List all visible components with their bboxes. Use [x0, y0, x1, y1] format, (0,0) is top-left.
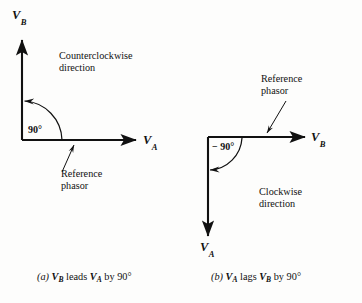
panel-b-horizontal-axis-subscript: B	[320, 139, 326, 149]
panel-b-caption-lagging-sub: A	[232, 275, 237, 284]
panel-b-direction-line1: Clockwise	[259, 186, 302, 198]
panel-b-reference-note: Reference phasor	[261, 73, 302, 97]
panel-b-vertical-axis-subscript: A	[209, 249, 215, 259]
panel-b-reference-line2: phasor	[261, 85, 302, 97]
panel-a-direction-line2: direction	[59, 62, 133, 74]
panel-a-direction-line1: Counterclockwise	[59, 50, 133, 62]
panel-b-caption-by: by	[274, 271, 284, 282]
panel-a-caption-verb: leads	[66, 271, 87, 282]
panel-b-caption: (b) VA lags VB by 90°	[211, 271, 301, 283]
panel-b-caption-verb: lags	[240, 271, 257, 282]
panel-a-caption-prefix: (a)	[37, 271, 49, 282]
panel-a-caption-lagging-sub: A	[97, 275, 102, 284]
panel-b-angle-label: − 90°	[212, 141, 234, 153]
panel-a-vertical-axis-label: VB	[12, 8, 26, 25]
panel-a-horizontal-axis-label: VA	[143, 133, 157, 150]
panel-a-direction-note: Counterclockwise direction	[59, 50, 133, 74]
panel-a-horizontal-axis-subscript: A	[152, 142, 158, 152]
panel-b-caption-prefix: (b)	[211, 271, 223, 282]
figure-vector-canvas	[0, 0, 362, 303]
panel-a-caption-angle: 90°	[117, 271, 131, 282]
panel-a-vertical-axis-subscript: B	[21, 17, 27, 27]
panel-b-caption-angle: 90°	[287, 271, 301, 282]
panel-b-caption-leading-sub: B	[266, 275, 271, 284]
panel-b-reference-leader	[267, 101, 286, 133]
panel-b-direction-note: Clockwise direction	[259, 186, 302, 210]
panel-b-horizontal-axis-label: VB	[311, 130, 325, 147]
panel-a-caption-lagging: V	[90, 271, 97, 282]
panel-a-caption: (a) VB leads VA by 90°	[37, 271, 132, 283]
panel-b-reference-line1: Reference	[261, 73, 302, 85]
panel-b-graphics	[208, 101, 305, 236]
panel-a-angle-label: 90°	[28, 124, 42, 136]
panel-a-reference-line1: Reference	[61, 168, 102, 180]
panel-a-caption-leading-sub: B	[58, 275, 63, 284]
panel-b-direction-line2: direction	[259, 198, 302, 210]
panel-a-reference-note: Reference phasor	[61, 168, 102, 192]
panel-b-vertical-axis-label: VA	[200, 240, 214, 257]
phasor-diagram-figure: VB VA 90° Counterclockwise direction Ref…	[0, 0, 362, 303]
panel-a-caption-by: by	[104, 271, 114, 282]
panel-a-reference-line2: phasor	[61, 180, 102, 192]
